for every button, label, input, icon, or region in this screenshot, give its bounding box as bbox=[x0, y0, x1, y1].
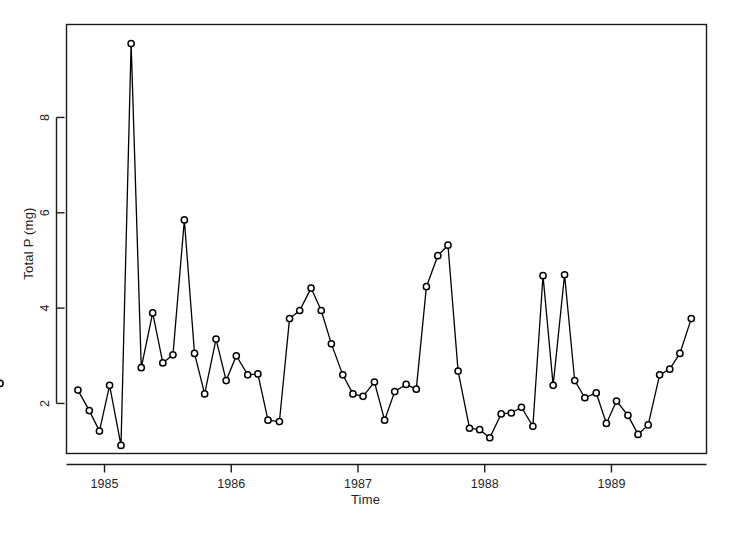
data-point-marker bbox=[0, 380, 3, 386]
data-point-marker bbox=[423, 284, 429, 290]
y-tick-label: 2 bbox=[39, 400, 53, 407]
data-point-marker bbox=[106, 382, 112, 388]
y-axis-title: Total P (mg) bbox=[21, 164, 36, 324]
data-point-marker bbox=[160, 360, 166, 366]
data-point-marker bbox=[477, 427, 483, 433]
data-point-marker bbox=[550, 382, 556, 388]
plot-frame bbox=[67, 25, 707, 454]
data-point-marker bbox=[561, 272, 567, 278]
data-point-marker bbox=[233, 353, 239, 359]
y-tick-label: 6 bbox=[39, 209, 53, 216]
data-series-total-p bbox=[0, 40, 694, 448]
data-point-marker bbox=[181, 217, 187, 223]
data-point-marker bbox=[150, 310, 156, 316]
data-point-marker bbox=[593, 390, 599, 396]
data-point-marker bbox=[255, 371, 261, 377]
data-point-marker bbox=[435, 253, 441, 259]
data-point-marker bbox=[75, 387, 81, 393]
x-axis: 19851986198719881989 bbox=[67, 465, 707, 491]
data-point-marker bbox=[466, 425, 472, 431]
data-point-marker bbox=[265, 417, 271, 423]
data-point-marker bbox=[540, 273, 546, 279]
data-point-marker bbox=[582, 395, 588, 401]
data-point-marker bbox=[487, 435, 493, 441]
data-point-marker bbox=[392, 388, 398, 394]
data-point-marker bbox=[328, 341, 334, 347]
data-point-marker bbox=[360, 393, 366, 399]
data-point-marker bbox=[350, 391, 356, 397]
data-point-marker bbox=[667, 366, 673, 372]
data-point-marker bbox=[138, 365, 144, 371]
data-point-marker bbox=[191, 350, 197, 356]
x-tick-label: 1989 bbox=[598, 477, 626, 491]
data-point-marker bbox=[286, 316, 292, 322]
data-point-marker bbox=[413, 386, 419, 392]
data-point-marker bbox=[118, 442, 124, 448]
data-point-marker bbox=[625, 412, 631, 418]
y-tick-label: 8 bbox=[39, 114, 53, 121]
data-point-marker bbox=[202, 391, 208, 397]
data-point-marker bbox=[518, 404, 524, 410]
data-point-marker bbox=[308, 285, 314, 291]
data-point-marker bbox=[572, 377, 578, 383]
x-tick-label: 1986 bbox=[217, 477, 245, 491]
x-tick-label: 1988 bbox=[471, 477, 499, 491]
data-point-marker bbox=[371, 379, 377, 385]
data-point-marker bbox=[276, 418, 282, 424]
data-point-marker bbox=[170, 352, 176, 358]
y-axis: 2468 bbox=[39, 114, 65, 407]
data-point-marker bbox=[657, 372, 663, 378]
data-point-marker bbox=[128, 40, 134, 46]
data-point-marker bbox=[340, 372, 346, 378]
data-point-marker bbox=[382, 417, 388, 423]
chart-container: 2468 19851986198719881989 Time Total P (… bbox=[0, 0, 731, 534]
x-axis-title: Time bbox=[0, 492, 731, 507]
data-point-marker bbox=[635, 431, 641, 437]
data-point-marker bbox=[96, 428, 102, 434]
data-point-marker bbox=[223, 377, 229, 383]
data-point-marker bbox=[603, 420, 609, 426]
data-point-marker bbox=[677, 350, 683, 356]
data-point-marker bbox=[297, 307, 303, 313]
data-point-marker bbox=[403, 381, 409, 387]
data-point-marker bbox=[445, 242, 451, 248]
time-series-plot: 2468 19851986198719881989 bbox=[0, 0, 731, 534]
data-point-marker bbox=[455, 368, 461, 374]
data-point-marker bbox=[318, 307, 324, 313]
data-point-marker bbox=[688, 316, 694, 322]
data-point-marker bbox=[645, 422, 651, 428]
data-point-marker bbox=[245, 372, 251, 378]
data-point-marker bbox=[498, 411, 504, 417]
data-point-marker bbox=[613, 398, 619, 404]
data-point-marker bbox=[86, 408, 92, 414]
x-tick-label: 1985 bbox=[91, 477, 119, 491]
y-tick-label: 4 bbox=[39, 305, 53, 312]
data-point-marker bbox=[508, 410, 514, 416]
data-point-marker bbox=[530, 423, 536, 429]
data-point-marker bbox=[213, 336, 219, 342]
x-tick-label: 1987 bbox=[344, 477, 372, 491]
